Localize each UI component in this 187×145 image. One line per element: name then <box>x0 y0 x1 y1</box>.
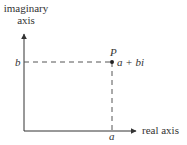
real-axis-label: real axis <box>142 124 179 136</box>
point-p-label: P <box>109 46 117 58</box>
a-tick-label: a <box>109 130 115 142</box>
imaginary-axis-label-line1: imaginary <box>4 2 49 14</box>
point-p-marker <box>110 60 114 64</box>
point-expression-label: a + bi <box>117 56 144 68</box>
complex-plane-diagram: imaginary axis real axis b a P a + bi <box>0 0 187 145</box>
imaginary-axis-label-line2: axis <box>17 14 35 26</box>
b-tick-label: b <box>15 56 21 68</box>
